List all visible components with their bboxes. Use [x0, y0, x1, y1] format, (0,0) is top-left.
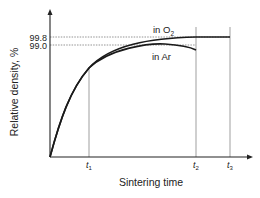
chart: 99.8 99.0 in O2 in Ar t1 t2 t3 Sintering… [0, 0, 260, 198]
x-tick-t2: t2 [193, 160, 200, 171]
x-tick-t1: t1 [86, 160, 93, 171]
x-axis-arrow-icon [247, 155, 253, 160]
curve-in-ar [50, 44, 196, 157]
x-axis-title: Sintering time [119, 176, 183, 188]
label-in-o2: in O2 [153, 24, 174, 37]
curve-in-o2 [50, 37, 230, 157]
label-in-ar: in Ar [152, 51, 171, 62]
y-axis-title: Relative density, % [8, 48, 20, 137]
x-tick-t3: t3 [227, 160, 234, 171]
y-tick-99-0: 99.0 [29, 41, 47, 51]
y-axis-arrow-icon [48, 9, 53, 15]
